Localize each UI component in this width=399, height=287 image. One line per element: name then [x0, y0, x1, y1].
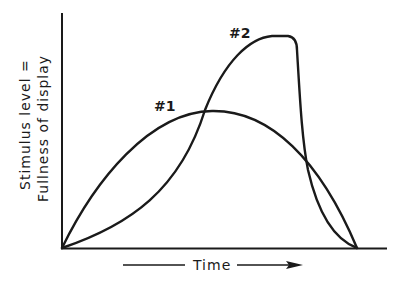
stimulus-chart: Stimulus level = Fullness of display Tim… — [0, 0, 399, 287]
y-axis-label-line1: Stimulus level = — [17, 59, 34, 190]
curve-1-label: #1 — [154, 98, 175, 114]
curve-2-label: #2 — [229, 25, 250, 41]
curve-2 — [62, 36, 357, 248]
chart-canvas — [0, 0, 399, 287]
curve-1 — [62, 111, 357, 248]
y-axis-label-line2: Fullness of display — [35, 55, 52, 202]
x-axis-label: Time — [193, 257, 231, 273]
